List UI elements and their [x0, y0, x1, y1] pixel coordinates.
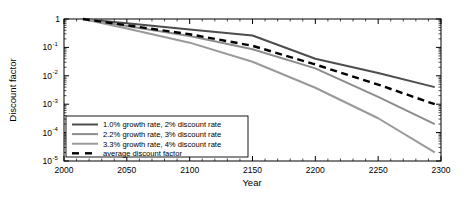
svg-text:-2: -2 — [53, 69, 59, 75]
y-axis-label: Discount factor — [7, 58, 18, 121]
svg-text:10: 10 — [43, 156, 53, 166]
x-tick-label: 2300 — [432, 165, 451, 175]
svg-text:10: 10 — [43, 42, 53, 52]
discount-factor-chart: 110-110-210-310-410-5 200020502100215022… — [0, 0, 466, 199]
svg-text:10: 10 — [43, 128, 53, 138]
x-tick-label: 2100 — [180, 165, 199, 175]
legend-label-1: 2.2% growth rate, 3% discount rate — [103, 130, 221, 139]
x-tick-label: 2000 — [55, 165, 74, 175]
chart-legend: 1.0% growth rate, 2% discount rate2.2% g… — [66, 116, 248, 158]
svg-text:-3: -3 — [53, 98, 59, 104]
svg-text:-4: -4 — [53, 126, 59, 132]
svg-text:10: 10 — [43, 71, 53, 81]
svg-text:-1: -1 — [53, 41, 59, 47]
x-axis-label: Year — [242, 177, 261, 188]
legend-label-3: average discount factor — [103, 149, 182, 158]
x-tick-label: 2200 — [306, 165, 325, 175]
svg-text:10: 10 — [43, 99, 53, 109]
svg-text:-5: -5 — [53, 155, 59, 161]
x-tick-label: 2150 — [243, 165, 262, 175]
x-tick-label: 2250 — [369, 165, 388, 175]
x-tick-label: 2050 — [117, 165, 136, 175]
legend-label-2: 3.3% growth rate, 4% discount rate — [103, 140, 221, 149]
y-tick-label: 1 — [55, 14, 60, 24]
svg-text:1: 1 — [55, 14, 60, 24]
legend-label-0: 1.0% growth rate, 2% discount rate — [103, 120, 221, 129]
